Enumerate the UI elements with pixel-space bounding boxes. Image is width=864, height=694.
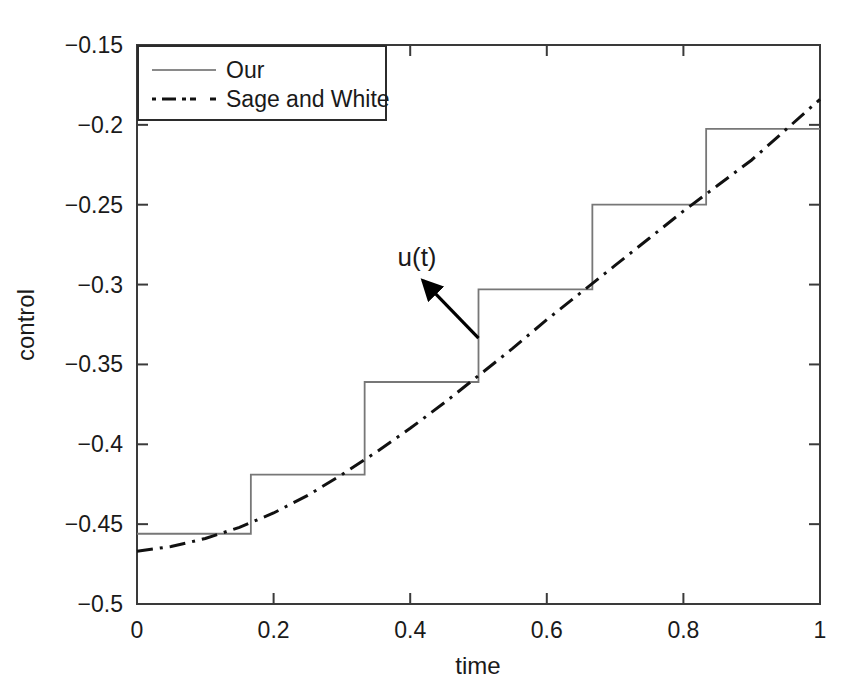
x-tick-label: 1 [814, 617, 827, 643]
y-tick-label: −0.45 [65, 511, 123, 537]
x-tick-label: 0.6 [531, 617, 563, 643]
x-tick-label: 0 [131, 617, 144, 643]
annotation-label: u(t) [398, 242, 437, 272]
figure-container: −0.5−0.45−0.4−0.35−0.3−0.25−0.2−0.15 00.… [0, 0, 864, 694]
y-tick-label: −0.15 [65, 32, 123, 58]
y-tick-label: −0.35 [65, 351, 123, 377]
y-tick-label: −0.2 [78, 112, 123, 138]
control-vs-time-chart: −0.5−0.45−0.4−0.35−0.3−0.25−0.2−0.15 00.… [0, 0, 864, 694]
x-tick-label: 0.2 [258, 617, 290, 643]
y-tick-label: −0.4 [78, 431, 124, 457]
chart-background [0, 0, 864, 694]
x-tick-label: 0.8 [667, 617, 699, 643]
y-tick-label: −0.3 [78, 272, 123, 298]
x-tick-label: 0.4 [394, 617, 426, 643]
y-tick-label: −0.25 [65, 192, 123, 218]
y-axis-title: control [12, 289, 39, 361]
legend[interactable]: Our Sage and White [138, 46, 390, 120]
legend-label-our: Our [226, 57, 265, 83]
legend-label-sage-and-white: Sage and White [226, 86, 390, 112]
y-tick-label: −0.5 [78, 591, 123, 617]
x-axis-title: time [455, 652, 500, 679]
